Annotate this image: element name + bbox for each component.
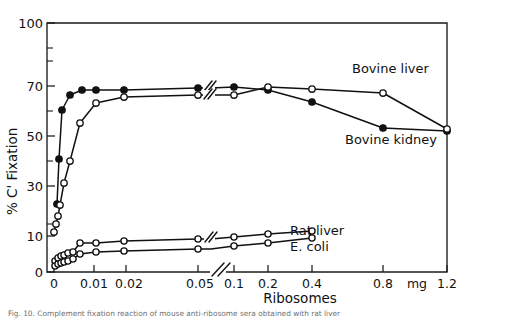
data-point: [195, 246, 201, 252]
x-tick-label: 0.01: [80, 276, 108, 291]
x-axis-ticks: [54, 265, 447, 272]
annotation-rat-liver: Rat liver: [290, 223, 345, 238]
y-tick-label: 70: [26, 79, 43, 94]
figure-caption: Fig. 10. Complement fixation reaction of…: [8, 309, 504, 318]
x-tick-label: 0.4: [302, 276, 322, 291]
data-point: [195, 92, 201, 98]
data-point: [51, 229, 57, 235]
data-point: [121, 94, 127, 100]
data-point: [53, 221, 59, 227]
data-point: [93, 240, 99, 246]
data-point: [380, 90, 386, 96]
data-point: [121, 87, 128, 94]
x-axis-title-text: Ribosomes: [263, 290, 337, 306]
y-axis-title: % C' Fixation: [4, 128, 20, 215]
data-point: [121, 238, 127, 244]
annotation-e-coli: E. coli: [290, 239, 329, 254]
data-point: [309, 99, 316, 106]
data-point: [231, 84, 238, 91]
data-point: [67, 92, 74, 99]
x-tick-label: 1.2: [437, 276, 457, 291]
y-tick-label: 0: [35, 265, 43, 280]
x-tick-label: 0.1: [224, 276, 244, 291]
data-point: [59, 107, 66, 114]
data-point: [79, 87, 86, 94]
figure-root: 100 70 50 30 10 0 % C' Fixation: [0, 0, 506, 321]
y-tick-label: 30: [26, 179, 43, 194]
x-tick-label: 0: [50, 276, 58, 291]
curve-break-marks-upper: [203, 81, 216, 99]
data-point: [70, 249, 76, 255]
data-point: [121, 248, 127, 254]
data-point: [57, 202, 63, 208]
data-point: [309, 86, 315, 92]
x-tick-label: 0.8: [373, 276, 393, 291]
data-point: [265, 231, 271, 237]
data-point: [77, 240, 83, 246]
data-point: [195, 85, 202, 92]
y-axis-title-text: % C' Fixation: [4, 128, 20, 215]
x-tick-label: 0.02: [115, 276, 143, 291]
data-point: [77, 120, 83, 126]
x-axis-title-group: mg Ribosomes: [263, 276, 427, 306]
data-point: [67, 158, 73, 164]
data-point: [55, 213, 61, 219]
data-point: [380, 125, 387, 132]
x-axis-tick-labels: 0 0.01 0.02 0.05 0.1 0.2 0.4 0.8 1.2: [50, 276, 457, 291]
data-point: [231, 92, 237, 98]
data-point: [195, 236, 201, 242]
y-tick-label: 10: [26, 229, 43, 244]
y-axis-tick-labels: 100 70 50 30 10 0: [18, 16, 43, 280]
data-point: [231, 243, 237, 249]
curve-break-marks-lower: [204, 232, 217, 242]
data-point: [231, 234, 237, 240]
x-tick-label: 0.2: [258, 276, 278, 291]
data-point: [265, 240, 271, 246]
series-rat-liver: [52, 228, 315, 264]
y-tick-label: 50: [26, 129, 43, 144]
x-tick-label: 0.05: [186, 276, 214, 291]
data-point: [56, 156, 63, 163]
complement-fixation-chart: 100 70 50 30 10 0 % C' Fixation: [0, 0, 506, 321]
annotation-bovine-kidney: Bovine kidney: [345, 132, 437, 147]
data-point: [93, 87, 100, 94]
annotation-bovine-liver: Bovine liver: [352, 61, 429, 76]
data-point: [93, 100, 99, 106]
data-point: [77, 251, 83, 257]
y-tick-label: 100: [18, 16, 43, 31]
x-axis-unit-label: mg: [407, 276, 427, 291]
data-point: [444, 126, 450, 132]
series-bovine-liver: [51, 84, 450, 235]
data-point: [265, 84, 271, 90]
data-point: [61, 180, 67, 186]
data-point: [70, 256, 76, 262]
data-point: [93, 249, 99, 255]
